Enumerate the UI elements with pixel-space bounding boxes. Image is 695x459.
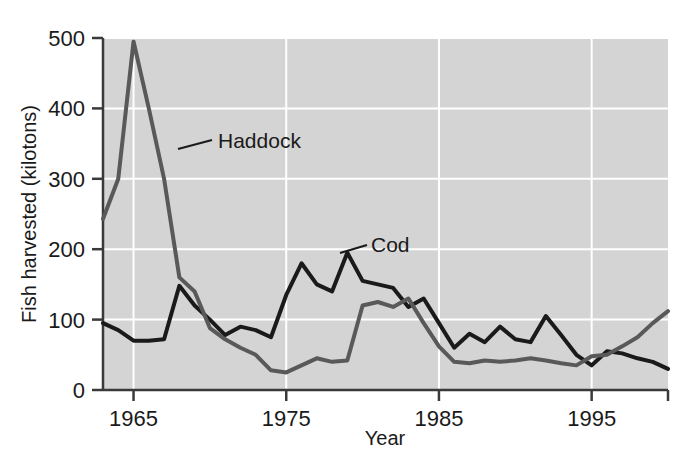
y-axis-tick-label: 300 <box>48 167 85 192</box>
y-axis-tick-label: 100 <box>48 308 85 333</box>
x-axis-ticks <box>134 390 668 401</box>
x-axis-tick-label: 1995 <box>567 406 616 431</box>
x-axis-tick-label: 1975 <box>262 406 311 431</box>
chart-figure: 0100200300400500 1965197519851995 CodHad… <box>0 0 695 459</box>
y-axis-tick-labels: 0100200300400500 <box>48 26 85 403</box>
x-axis-title: Year <box>365 427 406 449</box>
x-axis-tick-label: 1985 <box>414 406 463 431</box>
x-axis-tick-labels: 1965197519851995 <box>109 406 616 431</box>
series-label-haddock: Haddock <box>218 129 301 152</box>
y-axis-tick-label: 200 <box>48 237 85 262</box>
y-axis-tick-label: 500 <box>48 26 85 51</box>
y-axis-tick-label: 0 <box>73 378 85 403</box>
y-axis-tick-label: 400 <box>48 96 85 121</box>
fish-harvest-line-chart: 0100200300400500 1965197519851995 CodHad… <box>0 0 695 459</box>
series-label-cod: Cod <box>371 233 410 256</box>
y-axis-ticks <box>92 38 103 390</box>
plot-area-background <box>103 38 668 390</box>
x-axis-tick-label: 1965 <box>109 406 158 431</box>
y-axis-title: Fish harvested (kilotons) <box>18 105 40 323</box>
